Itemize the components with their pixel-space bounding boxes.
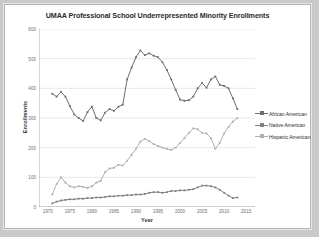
data-point — [206, 133, 208, 135]
data-point — [219, 189, 221, 191]
data-point — [184, 189, 186, 191]
data-point — [170, 79, 172, 81]
data-point — [51, 203, 53, 205]
x-tick-label: 1995 — [147, 209, 169, 214]
data-point — [206, 87, 208, 89]
x-tick-label: 2015 — [235, 209, 257, 214]
data-point — [179, 189, 181, 191]
data-point — [197, 187, 199, 189]
x-tick-label: 1980 — [81, 209, 103, 214]
legend-item[interactable]: African American — [255, 110, 311, 117]
data-point — [60, 91, 62, 93]
y-tick-label: 300 — [16, 116, 36, 121]
data-point — [135, 194, 137, 196]
data-point — [214, 148, 216, 150]
data-point — [157, 191, 159, 193]
data-point — [78, 117, 80, 119]
data-point — [166, 69, 168, 71]
data-point — [184, 100, 186, 102]
data-point — [60, 200, 62, 202]
data-point — [175, 89, 177, 91]
data-point — [60, 176, 62, 178]
data-point — [78, 198, 80, 200]
x-tick-label: 1985 — [103, 209, 125, 214]
data-point — [65, 199, 67, 201]
data-point — [109, 168, 111, 170]
data-point — [166, 148, 168, 150]
data-point — [69, 198, 71, 200]
data-point — [148, 192, 150, 194]
data-point — [126, 194, 128, 196]
data-point — [113, 167, 115, 169]
data-point — [95, 117, 97, 119]
data-point — [95, 182, 97, 184]
data-point — [201, 185, 203, 187]
data-point — [153, 143, 155, 145]
data-point — [69, 185, 71, 187]
legend-label: Native American — [269, 122, 305, 128]
data-point — [73, 198, 75, 200]
gridlines — [39, 29, 255, 207]
x-tick-label: 1970 — [37, 209, 59, 214]
chart-svg — [39, 29, 255, 207]
data-point — [109, 195, 111, 197]
data-point — [56, 183, 58, 185]
data-point — [91, 197, 93, 199]
legend-marker-icon — [255, 110, 268, 117]
y-tick-label: 400 — [16, 86, 36, 91]
data-point — [117, 164, 119, 166]
data-point — [153, 191, 155, 193]
data-point — [223, 133, 225, 135]
x-tick-label: 1975 — [59, 209, 81, 214]
legend-marker-icon — [255, 133, 268, 140]
data-point — [179, 142, 181, 144]
data-point — [135, 56, 137, 58]
data-point — [197, 128, 199, 130]
data-point — [206, 185, 208, 187]
data-point — [139, 194, 141, 196]
y-tick-label: 200 — [16, 145, 36, 150]
legend-item[interactable]: Native American — [255, 122, 311, 129]
data-point — [192, 127, 194, 129]
data-point — [214, 76, 216, 78]
data-point — [236, 117, 238, 119]
data-point — [51, 93, 53, 95]
data-point — [131, 154, 133, 156]
x-tick-label: 2010 — [213, 209, 235, 214]
x-tick-label: 2000 — [169, 209, 191, 214]
data-point — [219, 142, 221, 144]
data-point — [51, 194, 53, 196]
data-point — [65, 182, 67, 184]
data-point — [210, 137, 212, 139]
data-point — [188, 99, 190, 101]
data-point — [131, 194, 133, 196]
x-tick-label: 2005 — [191, 209, 213, 214]
y-tick-label: 100 — [16, 175, 36, 180]
series-line — [52, 50, 237, 121]
series-line — [52, 118, 237, 195]
legend-label: Hispanic American — [269, 134, 310, 140]
data-point — [139, 49, 141, 51]
data-point — [104, 112, 106, 114]
data-point — [162, 61, 164, 63]
y-tick-label: 0 — [16, 205, 36, 210]
x-tick-label: 1990 — [125, 209, 147, 214]
data-point — [201, 132, 203, 134]
data-point — [73, 187, 75, 189]
data-point — [184, 137, 186, 139]
data-point — [223, 85, 225, 87]
plot-area: 0100200300400500600 19701975198019851990… — [39, 29, 255, 207]
data-point — [170, 149, 172, 151]
data-point — [228, 195, 230, 197]
data-point — [162, 192, 164, 194]
data-point — [56, 96, 58, 98]
chart-card: UMAA Professional School Underrepresente… — [5, 5, 310, 228]
data-point — [56, 201, 58, 203]
data-point — [113, 195, 115, 197]
legend-item[interactable]: Hispanic American — [255, 133, 311, 140]
data-point — [65, 96, 67, 98]
data-point — [122, 195, 124, 197]
data-point — [135, 148, 137, 150]
data-point — [232, 98, 234, 100]
data-point — [228, 126, 230, 128]
